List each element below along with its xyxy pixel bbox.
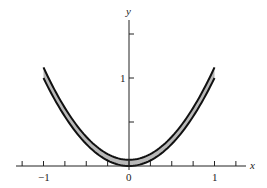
y-axis-label: y [125,5,131,17]
y-tick-label-1: 1 [120,72,126,84]
x-tick-label-0: 0 [126,171,132,183]
chart: x y −1 0 1 1 [0,0,267,188]
x-tick-label-1: 1 [212,171,218,183]
axes [16,20,246,170]
x-axis-label: x [249,159,255,171]
x-tick-label-neg1: −1 [38,171,50,183]
